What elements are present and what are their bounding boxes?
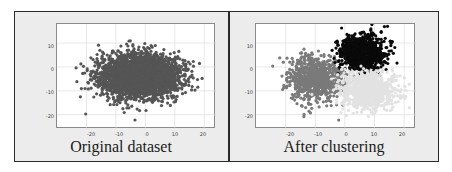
y-tick: -10: [38, 89, 54, 95]
y-tick: 10: [237, 43, 253, 49]
y-tick: -20: [237, 113, 253, 119]
x-tick: -20: [282, 131, 298, 137]
x-tick: 10: [167, 131, 183, 137]
x-tick: -20: [83, 131, 99, 137]
x-tick: 0: [139, 131, 155, 137]
scatter-points-clustered: [256, 24, 416, 129]
x-tick: 0: [338, 131, 354, 137]
panel-clustered: 10 0 -10 -20 -20 -10 0 10 20 After clust…: [229, 12, 439, 161]
scatter-points-original: [57, 24, 216, 129]
x-tick: -10: [310, 131, 326, 137]
y-tick: 0: [38, 66, 54, 72]
x-tick: 20: [394, 131, 410, 137]
x-tick: -10: [111, 131, 127, 137]
y-tick: -20: [38, 113, 54, 119]
panel-original: 10 0 -10 -20 -20 -10 0 10 20 Original da…: [15, 12, 227, 161]
y-tick: -10: [237, 89, 253, 95]
figure-frame: 10 0 -10 -20 -20 -10 0 10 20 Original da…: [14, 11, 439, 162]
caption-clustered: After clustering: [229, 138, 439, 156]
y-tick: 10: [38, 43, 54, 49]
x-tick: 20: [195, 131, 211, 137]
scatter-plot-clustered: [255, 23, 415, 128]
scatter-plot-original: [56, 23, 215, 128]
caption-original: Original dataset: [15, 138, 227, 156]
x-tick: 10: [366, 131, 382, 137]
y-tick: 0: [237, 66, 253, 72]
